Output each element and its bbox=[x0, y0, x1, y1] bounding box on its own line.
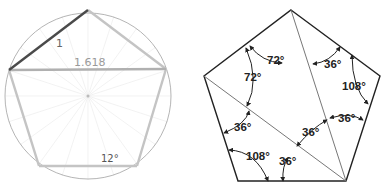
angle-labels: 72° 72° 36° 108° 36° 36° 36° 108° 36° bbox=[234, 54, 366, 167]
diagonal-top-to-bottom-right bbox=[291, 10, 346, 181]
angle-label: 72° bbox=[267, 54, 285, 66]
angle-label: 12° bbox=[101, 153, 119, 164]
diagonal-1618 bbox=[9, 69, 166, 70]
angle-label: 108° bbox=[342, 80, 366, 92]
diagonal-left-to-bottom-right bbox=[204, 76, 346, 181]
side-label: 1 bbox=[56, 37, 63, 50]
angle-label: 36° bbox=[324, 58, 342, 70]
diagonal-label: 1.618 bbox=[74, 56, 106, 69]
angle-label: 36° bbox=[279, 155, 297, 167]
angle-label: 36° bbox=[302, 126, 320, 138]
left-figure: 1 1.618 12° bbox=[5, 10, 171, 180]
diagram-canvas: 1 1.618 12° 72° 72° 36° 108° 36° 36° 36° bbox=[0, 0, 384, 190]
angle-label: 72° bbox=[244, 71, 262, 83]
right-figure: 72° 72° 36° 108° 36° 36° 36° 108° 36° bbox=[204, 10, 380, 181]
angle-label: 108° bbox=[246, 150, 270, 162]
angle-label: 36° bbox=[338, 112, 356, 124]
angle-label: 36° bbox=[234, 121, 252, 133]
center-dot bbox=[87, 95, 90, 98]
